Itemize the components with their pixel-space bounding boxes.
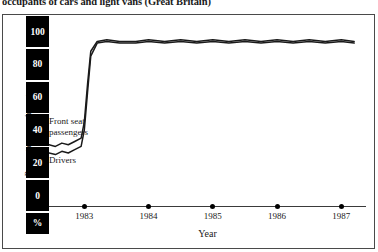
chart-title: occupants of cars and light vans (Great … bbox=[2, 0, 302, 8]
series-line-front-seat-passengers bbox=[49, 40, 354, 147]
y-tick-block-80: 80 bbox=[26, 49, 49, 80]
annotation-front-seat-passengers: Front seat passengers bbox=[49, 116, 88, 137]
annotation-drivers: Drivers bbox=[49, 155, 76, 166]
x-tick-label-1985: 1985 bbox=[193, 211, 233, 221]
series-canvas bbox=[49, 16, 367, 234]
x-tick-label-1986: 1986 bbox=[257, 211, 297, 221]
x-axis-line bbox=[49, 206, 366, 207]
x-tick-label-1984: 1984 bbox=[129, 211, 169, 221]
x-axis-title: Year bbox=[49, 228, 366, 239]
x-tick-dot-1986 bbox=[275, 204, 280, 209]
x-tick-dot-1983 bbox=[82, 204, 87, 209]
x-tick-dot-1987 bbox=[339, 204, 344, 209]
y-tick-block-20: 20 bbox=[26, 147, 49, 178]
x-tick-label-1983: 1983 bbox=[64, 211, 104, 221]
y-tick-block-100: 100 bbox=[26, 16, 49, 47]
annotation-fsp-line1: Front seat bbox=[49, 116, 88, 127]
y-axis-percent-block: % bbox=[26, 213, 49, 234]
y-tick-block-0: 0 bbox=[26, 180, 49, 211]
annotation-fsp-line2: passengers bbox=[49, 127, 88, 138]
y-tick-block-60: 60 bbox=[26, 82, 49, 113]
x-tick-dot-1984 bbox=[146, 204, 151, 209]
series-line-drivers bbox=[49, 41, 354, 154]
y-axis-title-container: Percentage wearing rate bbox=[6, 16, 26, 234]
x-tick-dot-1985 bbox=[210, 204, 215, 209]
y-axis-value-strip: 100806040200% bbox=[26, 16, 49, 234]
y-tick-block-40: 40 bbox=[26, 114, 49, 145]
x-tick-label-1987: 1987 bbox=[321, 211, 361, 221]
plot-area: Front seat passengers Drivers bbox=[49, 16, 367, 234]
